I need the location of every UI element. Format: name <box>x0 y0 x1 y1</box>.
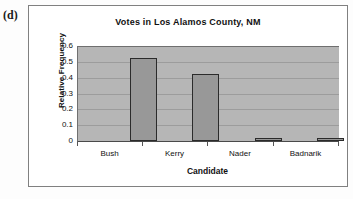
gridline <box>78 62 339 63</box>
plot-area <box>77 46 339 142</box>
bar-badnarik[interactable] <box>317 138 344 141</box>
y-tick-label: 0.5 <box>62 58 73 66</box>
x-tick <box>273 142 274 146</box>
chart-frame: Votes in Los Alamos County, NM Relative … <box>28 5 348 187</box>
y-tick-label: 0.3 <box>62 90 73 98</box>
bar-nader[interactable] <box>255 138 282 141</box>
y-tick-label: 0.4 <box>62 74 73 82</box>
figure-part-label: (d) <box>3 8 18 23</box>
plot-top-edge <box>78 46 339 47</box>
bar-bush[interactable] <box>130 58 157 141</box>
y-tick-label: 0 <box>69 137 73 145</box>
x-axis-tick-labels: Bush Kerry Nader Badnarik <box>77 149 338 161</box>
x-tick <box>338 142 339 146</box>
x-tick <box>142 142 143 146</box>
x-tick-label: Bush <box>77 149 142 158</box>
y-tick-label: 0.2 <box>62 105 73 113</box>
bar-kerry[interactable] <box>192 74 219 141</box>
x-axis-tick-marks <box>77 142 339 147</box>
x-tick-label: Badnarik <box>273 149 338 158</box>
x-axis-title: Candidate <box>77 166 338 176</box>
figure-panel: (d) Votes in Los Alamos County, NM Relat… <box>0 0 353 199</box>
x-tick-label: Kerry <box>142 149 207 158</box>
x-tick <box>207 142 208 146</box>
y-tick-label: 0.6 <box>62 42 73 50</box>
x-tick <box>77 142 78 146</box>
y-tick-label: 0.1 <box>62 121 73 129</box>
chart-title: Votes in Los Alamos County, NM <box>29 17 347 27</box>
x-tick-label: Nader <box>207 149 273 158</box>
y-axis-tick-labels: 0.6 0.5 0.4 0.3 0.2 0.1 0 <box>51 46 75 141</box>
